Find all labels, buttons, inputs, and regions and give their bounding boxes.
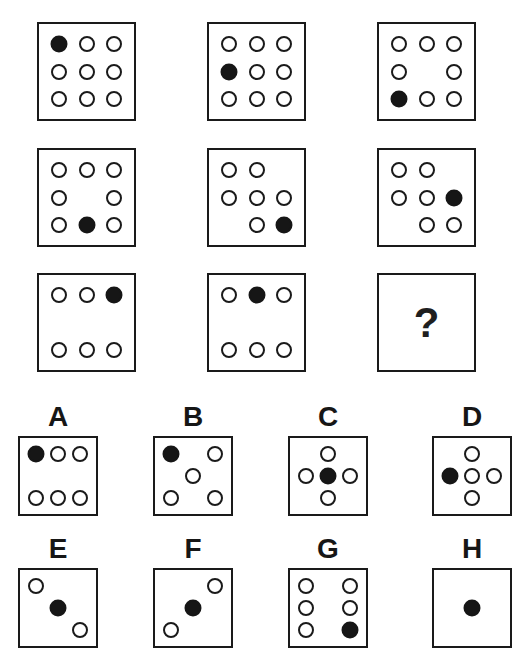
empty-dot [342, 600, 358, 616]
empty-dot [464, 490, 480, 506]
empty-dot [50, 446, 66, 462]
option-label-G: G [288, 534, 368, 568]
filled-dot [342, 622, 359, 639]
option-H: H [432, 534, 512, 648]
empty-dot [298, 622, 314, 638]
empty-dot [163, 490, 179, 506]
option-box-E[interactable] [18, 568, 98, 648]
option-label-B: B [153, 402, 233, 436]
option-label-F: F [153, 534, 233, 568]
empty-dot [207, 578, 223, 594]
option-E: E [18, 534, 98, 648]
option-G: G [288, 534, 368, 648]
option-A: A [18, 402, 98, 516]
option-label-A: A [18, 402, 98, 436]
option-B: B [153, 402, 233, 516]
answer-options: ABCDEFGH [0, 0, 527, 669]
filled-dot [162, 445, 179, 462]
empty-dot [185, 468, 201, 484]
option-C: C [288, 402, 368, 516]
empty-dot [298, 468, 314, 484]
empty-dot [320, 490, 336, 506]
empty-dot [207, 490, 223, 506]
option-box-B[interactable] [153, 436, 233, 516]
empty-dot [342, 578, 358, 594]
empty-dot [464, 446, 480, 462]
filled-dot [320, 468, 337, 485]
empty-dot [72, 490, 88, 506]
option-box-C[interactable] [288, 436, 368, 516]
empty-dot [163, 622, 179, 638]
option-label-D: D [432, 402, 512, 436]
filled-dot [441, 468, 458, 485]
empty-dot [207, 446, 223, 462]
empty-dot [342, 468, 358, 484]
option-label-C: C [288, 402, 368, 436]
option-F: F [153, 534, 233, 648]
option-D: D [432, 402, 512, 516]
filled-dot [464, 600, 481, 617]
empty-dot [298, 578, 314, 594]
option-label-E: E [18, 534, 98, 568]
option-box-A[interactable] [18, 436, 98, 516]
filled-dot [50, 600, 67, 617]
filled-dot [27, 445, 44, 462]
empty-dot [486, 468, 502, 484]
empty-dot [72, 622, 88, 638]
empty-dot [298, 600, 314, 616]
puzzle-page: ? ABCDEFGH [0, 0, 527, 669]
empty-dot [50, 490, 66, 506]
option-box-G[interactable] [288, 568, 368, 648]
option-box-F[interactable] [153, 568, 233, 648]
empty-dot [320, 446, 336, 462]
empty-dot [72, 446, 88, 462]
empty-dot [464, 468, 480, 484]
filled-dot [185, 600, 202, 617]
option-box-H[interactable] [432, 568, 512, 648]
empty-dot [28, 578, 44, 594]
option-box-D[interactable] [432, 436, 512, 516]
option-label-H: H [432, 534, 512, 568]
empty-dot [28, 490, 44, 506]
